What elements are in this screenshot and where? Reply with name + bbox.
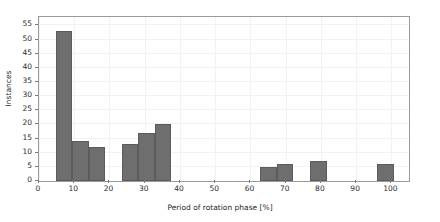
histogram-bar	[277, 164, 294, 181]
x-tick-label: 60	[234, 185, 264, 193]
gridline-vertical	[109, 17, 110, 181]
histogram-bar	[377, 164, 394, 181]
y-tick-label: 55	[0, 20, 32, 28]
y-tick-mark	[35, 109, 38, 110]
y-tick-mark	[35, 67, 38, 68]
gridline-vertical	[215, 17, 216, 181]
x-tick-mark	[249, 180, 250, 183]
x-tick-mark	[355, 180, 356, 183]
histogram-figure: 0510152025303540455055 01020304050607080…	[0, 0, 440, 222]
y-tick-mark	[35, 152, 38, 153]
x-tick-label: 40	[164, 185, 194, 193]
y-axis-label: Instances	[4, 59, 13, 119]
y-tick-mark	[35, 123, 38, 124]
x-tick-mark	[214, 180, 215, 183]
gridline-horizontal	[39, 123, 409, 124]
x-tick-label: 0	[23, 185, 53, 193]
y-tick-mark	[35, 95, 38, 96]
gridline-horizontal	[39, 81, 409, 82]
gridline-vertical	[391, 17, 392, 181]
y-tick-mark	[35, 24, 38, 25]
y-tick-label: 20	[0, 119, 32, 127]
gridline-vertical	[39, 17, 40, 181]
gridline-vertical	[321, 17, 322, 181]
y-tick-mark	[35, 166, 38, 167]
histogram-bar	[310, 161, 327, 181]
x-tick-label: 70	[270, 185, 300, 193]
histogram-bar	[138, 133, 155, 181]
x-tick-label: 50	[199, 185, 229, 193]
gridline-horizontal	[39, 39, 409, 40]
gridline-horizontal	[39, 53, 409, 54]
gridline-horizontal	[39, 24, 409, 25]
y-tick-label: 45	[0, 49, 32, 57]
histogram-bar	[155, 124, 172, 181]
histogram-bar	[260, 167, 277, 181]
x-tick-mark	[320, 180, 321, 183]
x-tick-mark	[38, 180, 39, 183]
x-tick-mark	[144, 180, 145, 183]
histogram-bar	[122, 144, 139, 181]
x-tick-label: 100	[375, 185, 405, 193]
y-tick-label: 10	[0, 148, 32, 156]
y-tick-mark	[35, 138, 38, 139]
y-tick-label: 5	[0, 162, 32, 170]
y-tick-label: 0	[0, 176, 32, 184]
histogram-bar	[72, 141, 89, 181]
x-tick-mark	[73, 180, 74, 183]
y-tick-label: 15	[0, 134, 32, 142]
histogram-bar	[89, 147, 106, 181]
gridline-vertical	[356, 17, 357, 181]
plot-area	[38, 16, 410, 182]
gridline-vertical	[250, 17, 251, 181]
x-tick-label: 30	[129, 185, 159, 193]
x-tick-label: 10	[58, 185, 88, 193]
histogram-bar	[56, 31, 73, 181]
gridline-horizontal	[39, 109, 409, 110]
gridline-vertical	[180, 17, 181, 181]
y-tick-mark	[35, 81, 38, 82]
x-tick-mark	[179, 180, 180, 183]
gridline-vertical	[286, 17, 287, 181]
y-tick-label: 50	[0, 35, 32, 43]
gridline-horizontal	[39, 95, 409, 96]
x-tick-mark	[108, 180, 109, 183]
x-tick-label: 90	[340, 185, 370, 193]
y-tick-mark	[35, 39, 38, 40]
y-tick-mark	[35, 53, 38, 54]
gridline-horizontal	[39, 67, 409, 68]
x-tick-mark	[285, 180, 286, 183]
x-axis-label: Period of rotation phase [%]	[0, 203, 440, 212]
x-tick-mark	[390, 180, 391, 183]
x-tick-label: 20	[93, 185, 123, 193]
gridline-horizontal	[39, 138, 409, 139]
x-tick-label: 80	[305, 185, 335, 193]
